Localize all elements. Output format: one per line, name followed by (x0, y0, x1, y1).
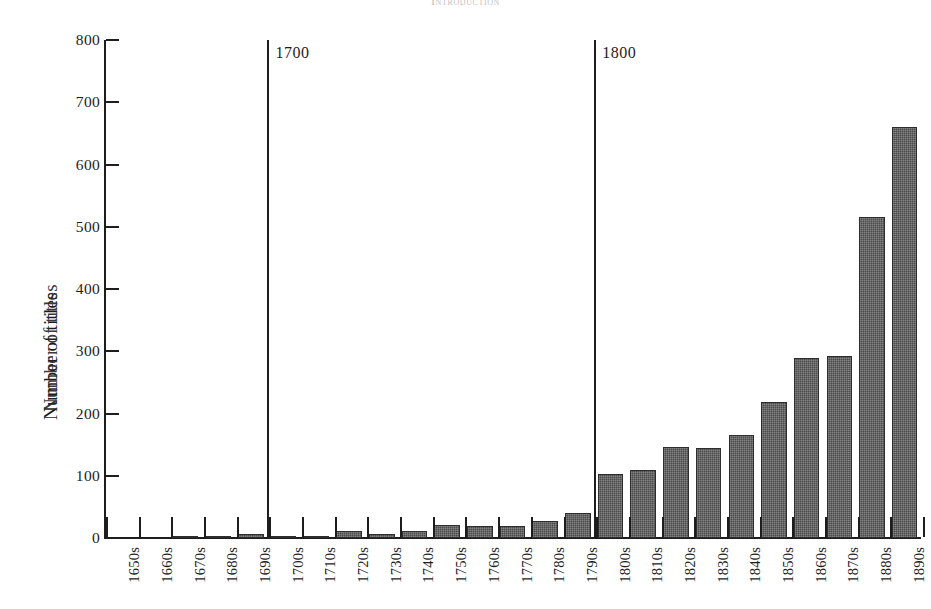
x-tick-label: 1730s (388, 547, 402, 583)
x-tick-label: 1890s (911, 547, 925, 583)
bar (892, 127, 917, 538)
y-tick-label: 700 (48, 94, 100, 110)
bar-series (104, 40, 921, 538)
x-tick (367, 517, 369, 537)
x-tick (400, 517, 402, 537)
x-tick-label: 1850s (780, 547, 794, 583)
x-tick-label: 1870s (845, 547, 859, 583)
bar (859, 217, 884, 538)
x-tick-label: 1720s (355, 547, 369, 583)
bar (827, 356, 852, 538)
x-tick (106, 517, 108, 537)
y-tick-label: 0 (48, 530, 100, 546)
y-tick-label: 300 (48, 343, 100, 359)
y-tick-label-wrap: 200 (40, 406, 100, 407)
x-tick (335, 517, 337, 537)
bar (598, 474, 623, 538)
x-tick (890, 517, 892, 537)
y-tick-label: 200 (48, 406, 100, 422)
x-tick (923, 517, 925, 537)
x-tick (727, 517, 729, 537)
x-tick (139, 517, 141, 537)
x-tick-label: 1780s (551, 547, 565, 583)
x-tick-label: 1670s (192, 547, 206, 583)
x-tick (596, 517, 598, 537)
bar (663, 447, 688, 538)
x-tick-label: 1860s (813, 547, 827, 583)
y-tick-label-wrap: 400 (40, 281, 100, 282)
x-tick (204, 517, 206, 537)
x-tick (564, 517, 566, 537)
x-tick (825, 517, 827, 537)
x-tick (237, 517, 239, 537)
x-tick-label: 1660s (159, 547, 173, 583)
bar (532, 521, 557, 538)
x-tick (760, 517, 762, 537)
y-tick-label: 600 (48, 157, 100, 173)
x-tick-label: 1770s (519, 547, 533, 583)
bar (369, 534, 394, 538)
y-tick-label-wrap: 600 (40, 157, 100, 158)
x-tick-label: 1680s (224, 547, 238, 583)
x-tick-label: 1750s (453, 547, 467, 583)
x-tick-label: 1800s (617, 547, 631, 583)
bar (271, 536, 296, 538)
y-tick-label-wrap: 300 (40, 343, 100, 344)
bar (173, 536, 198, 538)
x-tick (662, 517, 664, 537)
bar (696, 448, 721, 538)
bar (761, 402, 786, 538)
bar (304, 536, 329, 538)
x-tick-label: 1710s (322, 547, 336, 583)
x-tick (694, 517, 696, 537)
x-tick-label: 1690s (257, 547, 271, 583)
y-tick-label: 400 (48, 281, 100, 297)
x-tick-label: 1810s (649, 547, 663, 583)
bar (434, 525, 459, 538)
bar (238, 534, 263, 538)
y-tick-label: 800 (48, 32, 100, 48)
bar (336, 531, 361, 538)
histogram-figure: Number of titles Number of titles 010020… (0, 0, 931, 609)
x-tick (792, 517, 794, 537)
bar (500, 526, 525, 538)
y-tick-label-wrap: 700 (40, 94, 100, 95)
x-tick-label: 1740s (420, 547, 434, 583)
y-tick-label-wrap: 800 (40, 32, 100, 33)
bar (565, 513, 590, 538)
y-tick-label: 100 (48, 468, 100, 484)
x-tick-label: 1880s (878, 547, 892, 583)
x-tick-label: 1700s (290, 547, 304, 583)
x-tick (858, 517, 860, 537)
bar (206, 536, 231, 538)
x-tick (302, 517, 304, 537)
x-tick-label: 1650s (126, 547, 140, 583)
x-tick (498, 517, 500, 537)
x-tick-label: 1830s (715, 547, 729, 583)
x-tick-label: 1840s (747, 547, 761, 583)
x-tick-label: 1820s (682, 547, 696, 583)
x-tick (269, 517, 271, 537)
x-tick-label: 1760s (486, 547, 500, 583)
bar (467, 526, 492, 538)
y-tick-label: 500 (48, 219, 100, 235)
y-tick-label-wrap: 100 (40, 468, 100, 469)
x-tick (433, 517, 435, 537)
x-tick (465, 517, 467, 537)
y-tick-label-wrap: 0 (40, 530, 100, 531)
bar (729, 435, 754, 538)
bar (402, 531, 427, 538)
x-tick-label: 1790s (584, 547, 598, 583)
x-tick (171, 517, 173, 537)
x-tick (531, 517, 533, 537)
x-tick (629, 517, 631, 537)
y-tick-label-wrap: 500 (40, 219, 100, 220)
bar (630, 470, 655, 538)
bar (794, 358, 819, 538)
